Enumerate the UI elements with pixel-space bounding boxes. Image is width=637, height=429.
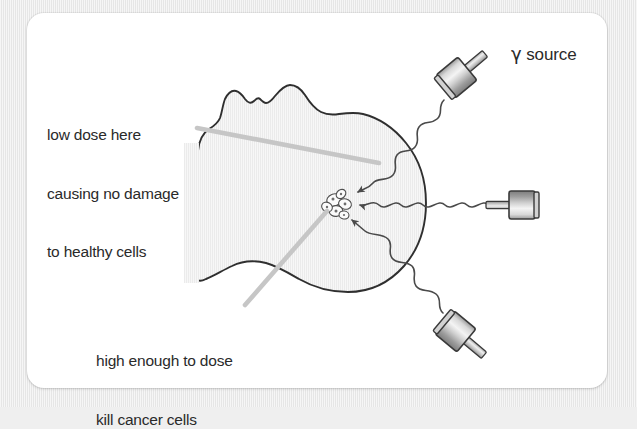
annotation-low-dose-line3: to healthy cells — [47, 242, 179, 262]
annotation-low-dose-line1: low dose here — [47, 125, 179, 145]
label-gamma-source: γ source — [511, 43, 577, 65]
annotation-low-dose-line2: causing no damage — [47, 184, 179, 204]
gamma-source-text: source — [522, 45, 577, 64]
annotation-high-dose: high enough to dose kill cancer cells — [96, 312, 233, 429]
annotation-high-dose-line2: kill cancer cells — [96, 410, 233, 429]
annotation-high-dose-line1: high enough to dose — [96, 351, 233, 371]
annotation-low-dose: low dose here causing no damage to healt… — [47, 86, 179, 301]
gamma-symbol: γ — [511, 43, 522, 64]
